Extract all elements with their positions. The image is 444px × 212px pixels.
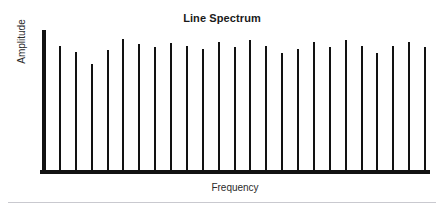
- spectral-line: [75, 52, 77, 171]
- spectral-line: [59, 46, 61, 171]
- spectral-line: [154, 47, 156, 171]
- spectral-line: [186, 46, 188, 171]
- page-title: Line Spectrum: [0, 12, 444, 25]
- spectral-line: [392, 46, 394, 171]
- spectral-line: [107, 50, 109, 171]
- spectral-lines-group: [40, 28, 430, 171]
- spectral-line: [329, 47, 331, 171]
- spectral-line: [361, 46, 363, 171]
- spectral-line: [408, 42, 410, 171]
- spectral-line: [376, 53, 378, 171]
- spectral-line: [297, 49, 299, 171]
- line-spectrum-figure: Line Spectrum Amplitude Frequency: [0, 0, 444, 212]
- spectral-line: [265, 46, 267, 171]
- spectral-line: [345, 40, 347, 171]
- spectral-line: [218, 42, 220, 171]
- spectral-line: [170, 43, 172, 171]
- spectral-line: [138, 44, 140, 171]
- spectral-line: [122, 39, 124, 171]
- bottom-divider: [8, 202, 436, 203]
- spectral-line: [281, 53, 283, 171]
- spectral-line: [313, 42, 315, 171]
- spectral-line: [249, 40, 251, 171]
- x-axis-label: Frequency: [40, 182, 430, 193]
- spectral-line: [91, 64, 93, 171]
- spectral-line: [234, 47, 236, 171]
- plot-area: [40, 28, 430, 174]
- y-axis-label: Amplitude: [16, 0, 27, 87]
- spectral-line: [424, 47, 426, 171]
- spectral-line: [202, 49, 204, 171]
